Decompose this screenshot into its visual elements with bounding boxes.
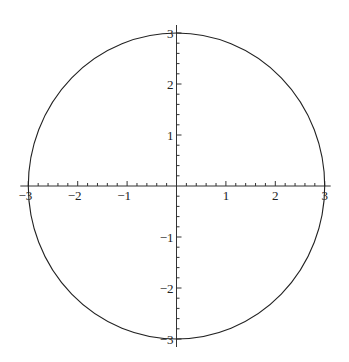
y-tick-label: −3 (160, 332, 174, 347)
x-tick-label: −2 (68, 188, 82, 203)
x-tick-label: 1 (223, 188, 230, 203)
y-tick-label: −1 (160, 230, 174, 245)
axes (20, 25, 330, 347)
x-tick-label: 2 (272, 188, 279, 203)
y-tick-label: 1 (167, 128, 174, 143)
circle-plot: −3−2−1123−3−2−1123 (0, 0, 349, 362)
x-tick-label: 3 (321, 188, 328, 203)
y-tick-label: 3 (167, 26, 174, 41)
x-tick-label: −1 (117, 188, 131, 203)
x-tick-label: −3 (18, 188, 32, 203)
y-tick-label: −2 (160, 281, 174, 296)
y-tick-label: 2 (167, 77, 174, 92)
